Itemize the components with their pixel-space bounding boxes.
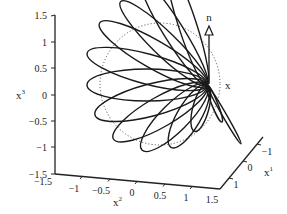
x-tick-label: 0 [248,162,253,173]
y-tick-label: 1.5 [206,194,219,205]
loop-family [83,0,242,160]
x-tick-label: 1 [234,179,239,190]
z-tick-label: −0.5 [29,116,47,127]
y-tick-label: 0 [130,187,135,198]
z-tick-label: 0 [42,90,47,101]
y-tick-label: −1 [69,183,80,194]
y-tick-label: 0.5 [154,190,167,201]
loop-curve [93,11,214,97]
y-axis-label: x2 [113,195,123,208]
y-tick-label: −0.5 [92,185,110,196]
plot-canvas: 1.5 1 0.5 0 −0.5 −1 −1.5 x3 −1.5 −1 −0.5… [0,0,287,214]
x-axis: 1 0 −1 x1 [220,137,274,190]
y-tick-label: −1.5 [34,176,52,187]
normal-label: n [206,11,212,23]
z-tick-label: 1 [42,37,47,48]
z-axis: 1.5 1 0.5 0 −0.5 −1 −1.5 x3 [16,10,55,180]
point-label: x [225,79,231,91]
z-tick-label: 0.5 [35,63,48,74]
z-tick-label: −1 [36,142,47,153]
y-axis: −1.5 −1 −0.5 0 0.5 1 1.5 x2 [34,174,220,208]
y-tick-label: 1 [184,192,189,203]
x-axis-label: x1 [264,165,274,178]
x-tick-label: −1 [262,146,273,157]
loop-curve [205,84,242,145]
z-tick-label: 1.5 [35,10,48,21]
z-axis-label: x3 [16,88,26,101]
